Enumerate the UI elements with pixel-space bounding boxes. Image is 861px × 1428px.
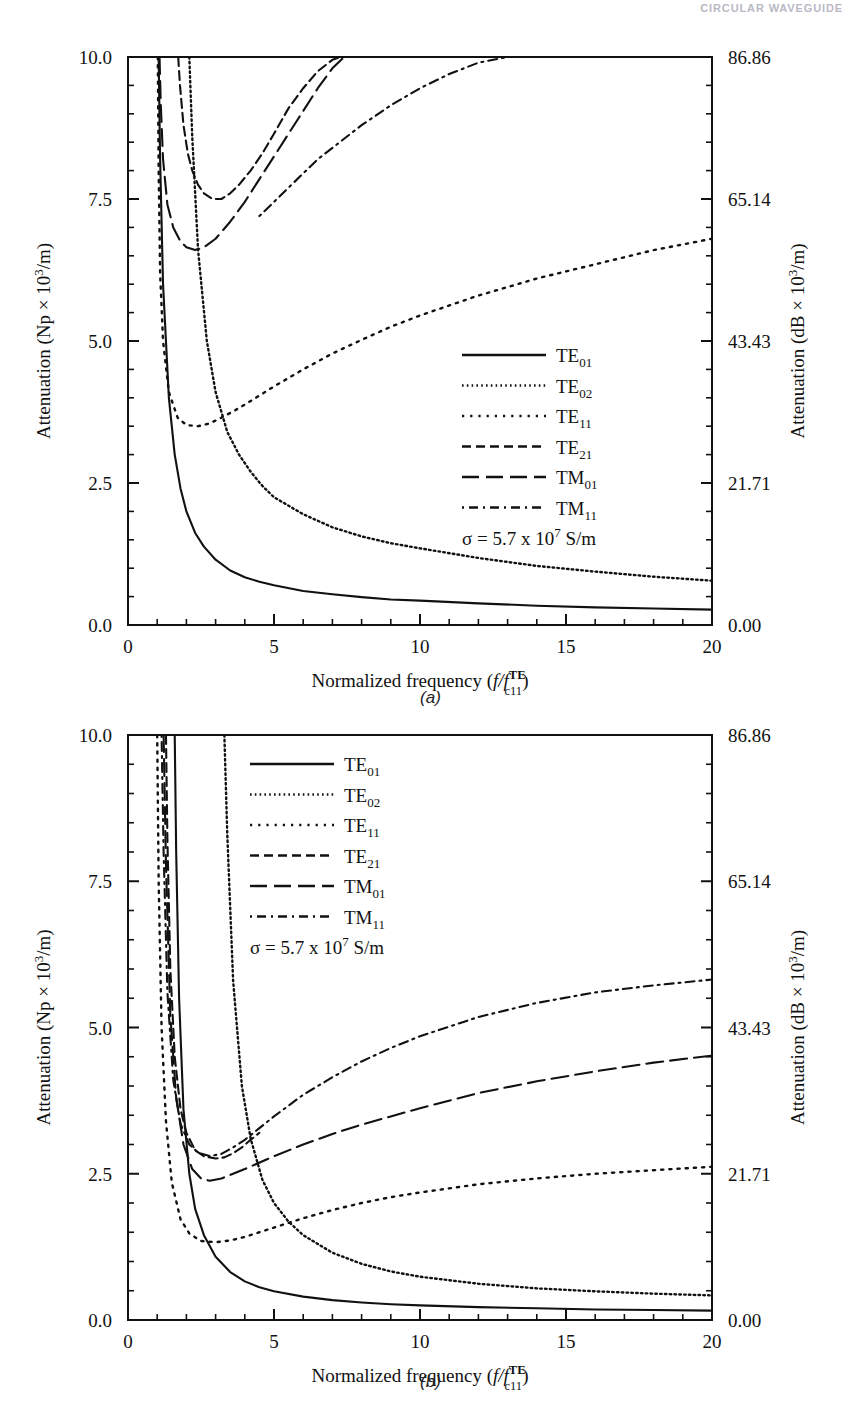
figure-b: 051015200.00.002.521.715.043.437.565.141… [0, 700, 861, 1400]
x-tick-label: 15 [557, 1331, 576, 1352]
series-TE01 [159, 57, 712, 610]
series-TE01 [175, 735, 712, 1311]
curves-group [158, 57, 712, 610]
y-tick-label: 0.0 [88, 1310, 112, 1331]
x-tick-label: 20 [703, 1331, 722, 1352]
legend-label-TM01: TM01 [556, 467, 598, 492]
x-tick-label: 0 [123, 1331, 133, 1352]
series-TE02 [224, 735, 712, 1295]
y2-tick-label: 43.43 [728, 331, 771, 352]
legend-label-TE02: TE02 [344, 785, 380, 810]
chart-a-canvas: 051015200.00.002.521.715.043.437.565.141… [0, 0, 861, 700]
x-tick-label: 10 [411, 636, 430, 657]
y2-tick-label: 21.71 [728, 1164, 771, 1185]
y2-tick-label: 0.00 [728, 615, 761, 636]
y2-tick-label: 86.86 [728, 47, 771, 68]
figure-b-caption: (b) [0, 1372, 861, 1392]
y2-tick-label: 43.43 [728, 1018, 771, 1039]
plot-frame [128, 57, 712, 625]
y2-axis-label: Attenuation (dB × 103/m) [785, 930, 810, 1125]
conductivity-annotation: σ = 5.7 x 107 S/m [250, 934, 384, 958]
legend-label-TE01: TE01 [556, 345, 592, 370]
y2-tick-label: 65.14 [728, 189, 771, 210]
x-tick-label: 20 [703, 636, 722, 657]
legend-label-TM11: TM11 [344, 907, 385, 932]
legend-label-TE21: TE21 [344, 846, 380, 871]
series-TM11 [162, 735, 712, 1156]
y-tick-label: 10.0 [79, 725, 112, 746]
y-axis-label: Attenuation (Np × 103/m) [31, 243, 56, 439]
x-tick-label: 15 [557, 636, 576, 657]
legend-label-TE01: TE01 [344, 754, 380, 779]
x-tick-label: 10 [411, 1331, 430, 1352]
series-TM01 [160, 57, 345, 250]
legend-label-TE21: TE21 [556, 437, 592, 462]
y-axis-label: Attenuation (Np × 103/m) [31, 929, 56, 1125]
y2-tick-label: 65.14 [728, 871, 771, 892]
x-tick-label: 5 [269, 1331, 279, 1352]
y2-tick-label: 21.71 [728, 473, 771, 494]
plot-frame [128, 735, 712, 1320]
y-tick-label: 2.5 [88, 1164, 112, 1185]
y-tick-label: 7.5 [88, 189, 112, 210]
legend-label-TE02: TE02 [556, 376, 592, 401]
curves-group [157, 735, 712, 1311]
y-tick-label: 10.0 [79, 47, 112, 68]
x-tick-label: 5 [269, 636, 279, 657]
legend-label-TE11: TE11 [344, 815, 380, 840]
series-TE11 [158, 57, 712, 426]
y2-tick-label: 86.86 [728, 725, 771, 746]
figure-a: 051015200.00.002.521.715.043.437.565.141… [0, 0, 861, 700]
figure-page: CIRCULAR WAVEGUIDE 051015200.00.002.521.… [0, 0, 861, 1428]
series-TM11 [259, 57, 507, 216]
legend-label-TE11: TE11 [556, 406, 592, 431]
y2-tick-label: 0.00 [728, 1310, 761, 1331]
legend-label-TM01: TM01 [344, 876, 386, 901]
y-tick-label: 7.5 [88, 871, 112, 892]
y-tick-label: 5.0 [88, 331, 112, 352]
series-TE21 [166, 735, 259, 1159]
y2-axis-label: Attenuation (dB × 103/m) [785, 243, 810, 438]
x-tick-label: 0 [123, 636, 133, 657]
chart-b-canvas: 051015200.00.002.521.715.043.437.565.141… [0, 700, 861, 1400]
conductivity-annotation: σ = 5.7 x 107 S/m [462, 525, 596, 549]
y-tick-label: 2.5 [88, 473, 112, 494]
y-tick-label: 5.0 [88, 1018, 112, 1039]
series-TE02 [189, 57, 712, 581]
legend-label-TM11: TM11 [556, 498, 597, 523]
y-tick-label: 0.0 [88, 615, 112, 636]
